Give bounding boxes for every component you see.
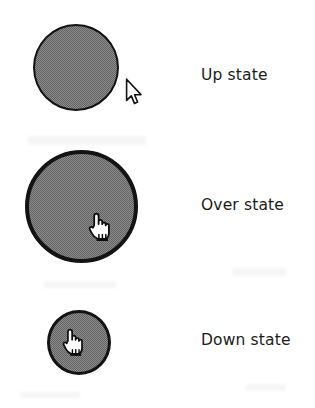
button-up-state-circle[interactable]	[33, 24, 119, 111]
button-down-state-circle[interactable]	[47, 310, 111, 375]
scan-artifact	[44, 281, 116, 288]
button-over-state-circle[interactable]	[25, 150, 138, 263]
scan-artifact	[232, 268, 286, 276]
label-up-state: Up state	[201, 66, 268, 84]
scan-artifact	[20, 392, 80, 398]
label-down-state: Down state	[201, 331, 291, 349]
scan-artifact	[246, 384, 286, 391]
scan-artifact	[28, 136, 146, 145]
label-over-state: Over state	[201, 196, 284, 214]
arrow-pointer-cursor	[125, 78, 143, 105]
button-states-figure: Up state Over state Down state	[0, 0, 315, 408]
